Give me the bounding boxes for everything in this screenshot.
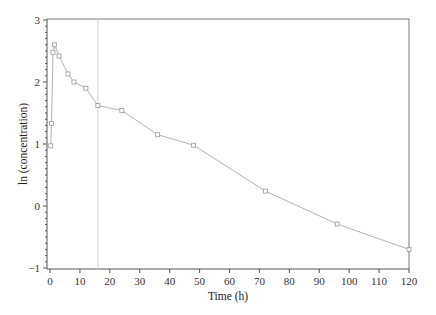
x-tick-label: 70 (254, 275, 266, 287)
x-tick-label: 50 (194, 275, 206, 287)
data-point-marker (120, 109, 124, 113)
y-axis-ticks: −10123 (28, 14, 47, 274)
y-axis-label: ln (concentration) (17, 103, 30, 185)
x-tick-label: 110 (371, 275, 388, 287)
x-tick-label: 100 (341, 275, 358, 287)
data-point-marker (335, 222, 339, 226)
data-point-marker (49, 144, 53, 148)
x-tick-label: 40 (164, 275, 176, 287)
series-line (51, 45, 409, 250)
data-point-marker (263, 189, 267, 193)
data-point-marker (407, 247, 411, 251)
x-tick-label: 20 (104, 275, 116, 287)
x-axis-ticks: 0102030405060708090100110120 (47, 269, 418, 287)
x-tick-label: 90 (314, 275, 326, 287)
x-tick-label: 60 (224, 275, 236, 287)
data-point-marker (156, 133, 160, 137)
chart: −10123 0102030405060708090100110120 Time… (0, 0, 436, 315)
y-tick-label: 3 (35, 14, 41, 26)
y-tick-label: 2 (35, 76, 41, 88)
data-point-marker (72, 80, 76, 84)
y-tick-label: 0 (35, 200, 41, 212)
data-point-marker (96, 104, 100, 108)
x-tick-label: 10 (74, 275, 86, 287)
plot-frame (47, 19, 409, 269)
data-point-marker (51, 50, 55, 54)
x-axis-label: Time (h) (208, 290, 248, 303)
data-series (49, 43, 411, 252)
data-point-marker (49, 122, 53, 126)
x-tick-label: 80 (284, 275, 296, 287)
y-tick-label: −1 (28, 262, 40, 274)
data-point-marker (192, 143, 196, 147)
x-tick-label: 120 (401, 275, 418, 287)
data-point-marker (66, 72, 70, 76)
x-tick-label: 0 (47, 275, 53, 287)
data-point-marker (52, 43, 56, 47)
data-point-marker (84, 86, 88, 90)
x-tick-label: 30 (134, 275, 146, 287)
y-tick-label: 1 (35, 138, 41, 150)
data-point-marker (57, 54, 61, 58)
